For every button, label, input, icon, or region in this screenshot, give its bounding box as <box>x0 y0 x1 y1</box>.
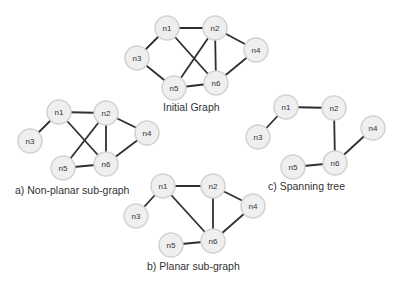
node-initial-n6: n6 <box>204 71 228 95</box>
node-label: n4 <box>143 129 152 138</box>
node-spanning-tree-n1: n1 <box>274 95 298 119</box>
node-initial-n3: n3 <box>125 46 149 70</box>
node-label: n4 <box>369 124 378 133</box>
node-label: n6 <box>331 159 340 168</box>
node-spanning-tree-n4: n4 <box>361 116 385 140</box>
node-planar-n6: n6 <box>201 229 225 253</box>
node-spanning-tree-n3: n3 <box>246 125 270 149</box>
node-label: n5 <box>289 163 298 172</box>
node-non-planar-n1: n1 <box>47 100 71 124</box>
node-label: n3 <box>254 133 263 142</box>
node-initial-n1: n1 <box>155 16 179 40</box>
node-label: n2 <box>102 109 111 118</box>
node-non-planar-n2: n2 <box>94 101 118 125</box>
node-label: n1 <box>159 182 168 191</box>
node-spanning-tree-n6: n6 <box>323 151 347 175</box>
node-label: n5 <box>167 241 176 250</box>
node-label: n4 <box>249 202 258 211</box>
edges-layer <box>30 28 373 245</box>
node-planar-n4: n4 <box>241 194 265 218</box>
caption-initial-graph: Initial Graph <box>163 101 220 113</box>
node-initial-n5: n5 <box>162 76 186 100</box>
node-planar-n1: n1 <box>151 174 175 198</box>
node-spanning-tree-n2: n2 <box>322 96 346 120</box>
node-label: n6 <box>209 237 218 246</box>
node-non-planar-n4: n4 <box>135 121 159 145</box>
nodes-layer: n1n2n3n4n5n6n1n2n3n4n5n6n1n2n3n4n5n6n1n2… <box>18 16 385 257</box>
node-label: n2 <box>330 104 339 113</box>
node-non-planar-n3: n3 <box>18 129 42 153</box>
node-label: n4 <box>252 46 261 55</box>
node-label: n2 <box>209 182 218 191</box>
caption-planar-sub-graph: b) Planar sub-graph <box>147 260 240 272</box>
caption-spanning-tree: c) Spanning tree <box>268 180 345 192</box>
node-label: n1 <box>55 108 64 117</box>
node-label: n6 <box>212 79 221 88</box>
node-non-planar-n5: n5 <box>51 156 75 180</box>
node-planar-n5: n5 <box>159 233 183 257</box>
node-label: n3 <box>132 212 141 221</box>
node-label: n5 <box>170 84 179 93</box>
caption-non-planar-sub-graph: a) Non-planar sub-graph <box>15 184 129 196</box>
node-initial-n4: n4 <box>244 38 268 62</box>
node-label: n3 <box>26 137 35 146</box>
graph-diagram: n1n2n3n4n5n6n1n2n3n4n5n6n1n2n3n4n5n6n1n2… <box>0 0 402 282</box>
node-label: n1 <box>282 103 291 112</box>
node-spanning-tree-n5: n5 <box>281 155 305 179</box>
node-non-planar-n6: n6 <box>94 152 118 176</box>
node-planar-n2: n2 <box>201 174 225 198</box>
node-label: n5 <box>59 164 68 173</box>
node-label: n1 <box>163 24 172 33</box>
node-planar-n3: n3 <box>124 204 148 228</box>
node-label: n2 <box>211 24 220 33</box>
node-label: n3 <box>133 54 142 63</box>
node-initial-n2: n2 <box>203 16 227 40</box>
node-label: n6 <box>102 160 111 169</box>
